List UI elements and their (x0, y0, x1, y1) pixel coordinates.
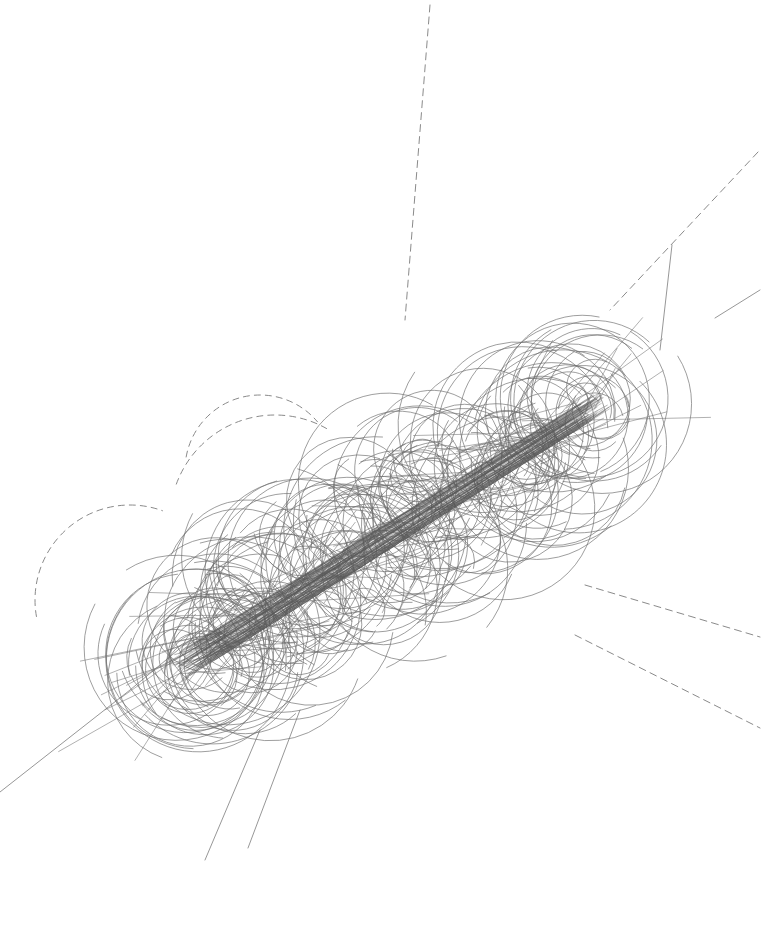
particle-track-image (0, 0, 763, 938)
